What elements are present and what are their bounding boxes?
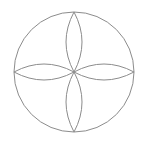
petal-bottom — [66, 72, 82, 132]
petal-top — [66, 12, 82, 72]
petal-left — [14, 64, 74, 80]
diagram-canvas — [0, 0, 144, 145]
petal-right — [74, 64, 134, 80]
